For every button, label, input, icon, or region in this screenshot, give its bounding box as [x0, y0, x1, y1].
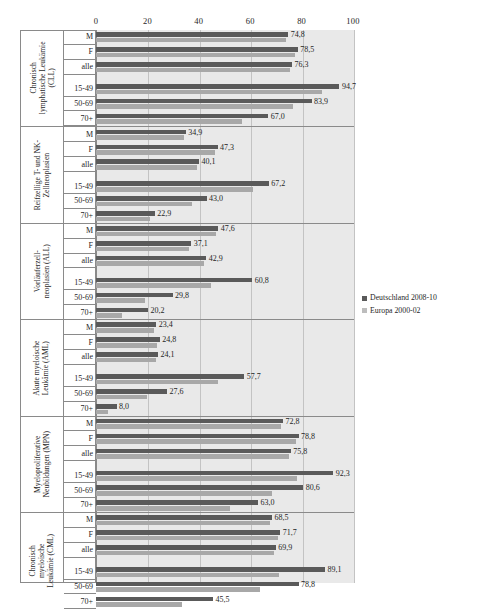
bar-europa [96, 247, 189, 252]
bar-value-label: 89,1 [327, 565, 341, 575]
bar-europa [96, 150, 215, 155]
bar-deutschland [96, 322, 156, 327]
row-bars: 72,8 [96, 417, 354, 432]
bar-value-label: 68,5 [275, 513, 289, 523]
chart-row: 15-4967,2 [64, 179, 354, 194]
row-label-15-49: 15-49 [64, 372, 96, 387]
bar-value-label: 57,7 [247, 372, 261, 382]
bar-value-label: 67,0 [271, 112, 285, 122]
chart-row: alle40,1 [64, 157, 354, 172]
bar-europa [96, 536, 278, 541]
bar-value-label: 20,2 [150, 306, 164, 316]
bar-europa [96, 119, 242, 124]
bar-value-label: 8,0 [119, 402, 129, 412]
bar-europa [96, 573, 279, 578]
bar-deutschland [96, 308, 148, 313]
row-spacer [64, 558, 354, 565]
group-rows: M74,8F78,5alle76,315-4994,750-6983,970+6… [64, 30, 354, 126]
row-bars: 60,8 [96, 275, 354, 290]
bar-deutschland [96, 434, 299, 439]
row-spacer-gutter [64, 268, 96, 275]
bar-europa [96, 53, 295, 58]
row-spacer [64, 365, 354, 372]
bar-deutschland [96, 545, 276, 550]
row-bars: 69,9 [96, 543, 354, 558]
bar-europa [96, 439, 296, 444]
bar-value-label: 40,1 [202, 157, 216, 167]
chart-row: M68,5 [64, 513, 354, 528]
bar-deutschland [96, 278, 252, 283]
bar-deutschland [96, 196, 207, 201]
row-label-70+: 70+ [64, 111, 96, 126]
row-label-alle: alle [64, 350, 96, 365]
row-label-50-69: 50-69 [64, 290, 96, 305]
row-bars: 29,8 [96, 290, 354, 305]
bar-deutschland [96, 130, 186, 135]
bar-value-label: 45,5 [215, 595, 229, 605]
bar-deutschland [96, 293, 173, 298]
chart-row: alle69,9 [64, 543, 354, 558]
x-tick-20: 20 [143, 16, 152, 26]
bar-europa [96, 202, 192, 207]
chart-row: alle76,3 [64, 60, 354, 75]
group-label: MyeloproliferativeNeubildungen (MPN) [20, 417, 64, 512]
row-bars: 94,7 [96, 82, 354, 97]
legend-label-de: Deutschland 2008-10 [370, 292, 437, 305]
chart-row: 70+67,0 [64, 111, 354, 126]
chart-row: 70+22,9 [64, 209, 354, 224]
row-spacer [64, 172, 354, 179]
bar-value-label: 34,9 [188, 128, 202, 138]
row-label-50-69: 50-69 [64, 580, 96, 595]
row-bars: 42,9 [96, 254, 354, 269]
legend-swatch-eu [362, 308, 367, 313]
row-bars: 45,5 [96, 594, 354, 609]
x-tick-40: 40 [194, 16, 203, 26]
bar-deutschland [96, 256, 206, 261]
bar-europa [96, 424, 281, 429]
chart-row: alle42,9 [64, 254, 354, 269]
row-spacer-gutter [64, 75, 96, 82]
row-spacer-gutter [64, 461, 96, 468]
bar-europa [96, 232, 216, 237]
row-bars: 75,8 [96, 446, 354, 461]
row-spacer [64, 268, 354, 275]
row-bars: 57,7 [96, 372, 354, 387]
chart-row: F37,1 [64, 239, 354, 254]
row-label-70+: 70+ [64, 594, 96, 609]
row-bars: 43,0 [96, 194, 354, 209]
row-spacer [64, 461, 354, 468]
chart-row: 50-6980,6 [64, 483, 354, 498]
bar-value-label: 69,9 [278, 543, 292, 553]
row-bars: 71,7 [96, 528, 354, 543]
bar-europa [96, 90, 322, 95]
bar-deutschland [96, 62, 292, 67]
bar-value-label: 76,3 [295, 60, 309, 70]
chart-row: M34,9 [64, 127, 354, 142]
chart-row: 15-4957,7 [64, 372, 354, 387]
row-bars: 24,1 [96, 350, 354, 365]
bar-europa [96, 187, 253, 192]
row-label-M: M [64, 30, 96, 45]
disease-group: Reifzellige T- und NK-ZellneoplasienM34,… [20, 126, 354, 222]
bar-deutschland [96, 211, 155, 216]
bar-value-label: 47,6 [221, 224, 235, 234]
bar-europa [96, 551, 274, 556]
chart-row: F78,8 [64, 431, 354, 446]
bar-deutschland [96, 597, 213, 602]
row-label-70+: 70+ [64, 498, 96, 513]
bar-value-label: 37,1 [194, 239, 208, 249]
chart-row: 15-4992,3 [64, 468, 354, 483]
group-label-text: Chronischlymphatische Leukämie(CLL) [28, 42, 56, 115]
x-tick-100: 100 [346, 16, 359, 26]
row-spacer-gutter [64, 365, 96, 372]
bar-deutschland [96, 582, 299, 587]
group-label: Chronischlymphatische Leukämie(CLL) [20, 30, 64, 126]
chart-row: 15-4989,1 [64, 565, 354, 580]
legend-swatch-de [362, 296, 367, 301]
group-rows: M68,5F71,7alle69,915-4989,150-6978,870+4… [64, 513, 354, 608]
row-bars: 24,8 [96, 335, 354, 350]
bar-deutschland [96, 145, 218, 150]
bar-deutschland [96, 47, 298, 52]
group-label-text: Akute myeloischeLeukämie (AML) [33, 340, 51, 395]
group-label: Reifzellige T- und NK-Zellneoplasien [20, 127, 64, 222]
